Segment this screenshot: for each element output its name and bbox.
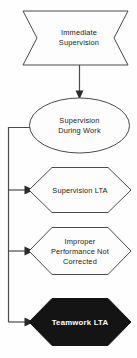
connector-trunk-vertical xyxy=(9,128,33,323)
improper-performance-label-line-2: Performance Not xyxy=(51,247,109,256)
immediate-supervision-label-line-1: Immediate xyxy=(61,28,97,37)
supervision-during-work-label-line-1: Supervision xyxy=(59,116,99,125)
node-immediate-supervision[interactable]: Immediate Supervision xyxy=(23,11,128,65)
node-improper-performance-not-corrected[interactable]: Improper Performance Not Corrected xyxy=(29,228,131,275)
improper-performance-label-line-3: Corrected xyxy=(63,257,97,266)
flowchart-diagram: Immediate Supervision Supervision During… xyxy=(0,0,137,358)
improper-performance-label-line-1: Improper xyxy=(65,237,96,246)
supervision-during-work-label-line-2: During Work xyxy=(58,126,101,135)
teamwork-lta-label: Teamwork LTA xyxy=(52,318,109,327)
node-teamwork-lta[interactable]: Teamwork LTA xyxy=(29,299,131,346)
supervision-lta-label: Supervision LTA xyxy=(52,186,107,195)
flowchart-canvas: Immediate Supervision Supervision During… xyxy=(0,0,137,358)
node-supervision-lta[interactable]: Supervision LTA xyxy=(29,168,131,213)
immediate-supervision-label-line-2: Supervision xyxy=(59,38,99,47)
node-supervision-during-work[interactable]: Supervision During Work xyxy=(30,98,130,153)
